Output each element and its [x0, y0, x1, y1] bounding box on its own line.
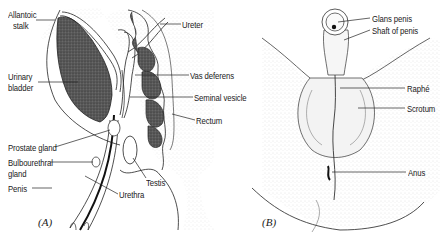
label-glans-penis: Glans penis [372, 14, 412, 24]
label-seminal-vesicle: Seminal vesicle [194, 93, 246, 103]
label-shaft-of-penis: Shaft of penis [372, 26, 418, 36]
panel-b-drawing [252, 9, 440, 232]
label-vas-deferens: Vas deferens [190, 71, 234, 81]
panel-label-b: (B) [262, 216, 276, 228]
label-urinary-bladder-line1: Urinary [8, 72, 32, 82]
label-urethra: Urethra [119, 190, 144, 200]
label-allantoic-stalk-line2: stalk [13, 21, 28, 31]
label-ureter: Ureter [182, 20, 203, 30]
label-rectum: Rectum [196, 116, 222, 126]
anatomy-figure: Allantoic stalk Urinary bladder Ureter V… [0, 0, 444, 236]
label-bulbourethral-gland-line2: gland [8, 169, 27, 179]
label-allantoic-stalk-line1: Allantoic [8, 10, 36, 20]
label-scrotum: Scrotum [407, 104, 435, 114]
panel-label-a: (A) [38, 216, 52, 228]
label-testis: Testis [146, 178, 165, 188]
label-penis: Penis [8, 184, 27, 194]
label-anus: Anus [408, 168, 425, 178]
label-prostate-gland: Prostate gland [8, 143, 57, 153]
label-raphe: Raphé [407, 84, 429, 94]
label-bulbourethral-gland-line1: Bulbourethral [8, 158, 53, 168]
label-urinary-bladder-line2: bladder [8, 83, 33, 93]
